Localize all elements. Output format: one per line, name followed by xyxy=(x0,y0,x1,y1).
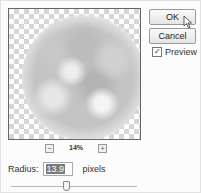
preview-checkbox[interactable]: ✓ xyxy=(152,47,162,57)
cancel-button[interactable]: Cancel xyxy=(149,28,196,44)
filter-preview-canvas[interactable] xyxy=(8,8,141,140)
radius-row: Radius: 13.9 pixels xyxy=(8,162,106,176)
blurred-image-preview xyxy=(22,14,141,140)
radius-input[interactable]: 13.9 xyxy=(43,162,73,176)
zoom-controls: − 14% + xyxy=(45,144,105,154)
radius-value: 13.9 xyxy=(46,164,66,174)
gaussian-blur-dialog: OK Cancel ✓ Preview − 14% + Radius: 13.9… xyxy=(0,0,201,193)
radius-label: Radius: xyxy=(8,164,39,174)
preview-checkbox-label: Preview xyxy=(165,47,197,57)
mouse-cursor-icon xyxy=(183,15,193,29)
zoom-level: 14% xyxy=(69,144,83,151)
radius-slider-thumb[interactable] xyxy=(63,181,70,191)
zoom-in-button[interactable]: + xyxy=(98,144,107,153)
zoom-out-button[interactable]: − xyxy=(45,144,54,153)
radius-units: pixels xyxy=(83,164,106,174)
radius-slider-track[interactable] xyxy=(11,186,137,187)
preview-checkbox-row[interactable]: ✓ Preview xyxy=(152,47,197,57)
